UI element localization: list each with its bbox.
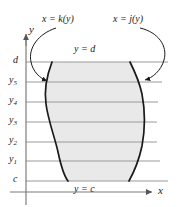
right-curve-label: x = j(y) [113,14,143,24]
ytick-label-d: d [13,55,18,65]
bottom-boundary-label: y = c [74,184,95,194]
right-label-leader-arrow [140,28,165,80]
ytick-label-y2: y2 [9,135,17,147]
ytick-label-y3: y3 [9,115,17,127]
top-boundary-label: y = d [74,44,95,54]
left-curve-label: x = k(y) [42,14,74,24]
ytick-label-y4: y4 [9,95,17,107]
ytick-label-y1: y1 [9,154,17,166]
region-diagram: y x x = k(y) x = j(y) y = d y = c d y5 y… [0,0,179,207]
ytick-label-c: c [13,174,17,184]
ytick-label-y5: y5 [9,75,17,87]
diagram-canvas [0,0,179,207]
x-axis-label: x [158,185,163,196]
y-axis-label: y [29,24,34,35]
